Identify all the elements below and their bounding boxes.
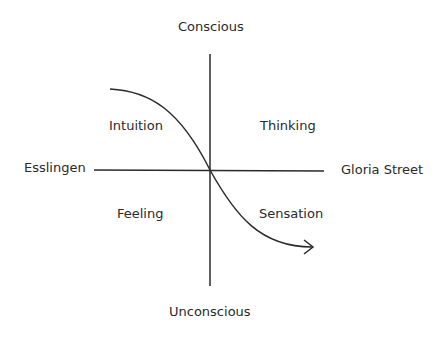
quadrant-label-thinking: Thinking: [260, 119, 316, 132]
horizontal-axis: [94, 170, 324, 171]
axis-label-right: Gloria Street: [341, 163, 423, 176]
axis-label-bottom: Unconscious: [169, 305, 251, 318]
quadrant-label-sensation: Sensation: [259, 207, 323, 220]
axis-label-top: Conscious: [178, 20, 244, 33]
axis-label-left: Esslingen: [24, 161, 86, 174]
quadrant-label-intuition: Intuition: [109, 119, 163, 132]
s-curve: [110, 89, 312, 247]
quadrant-label-feeling: Feeling: [117, 207, 163, 220]
